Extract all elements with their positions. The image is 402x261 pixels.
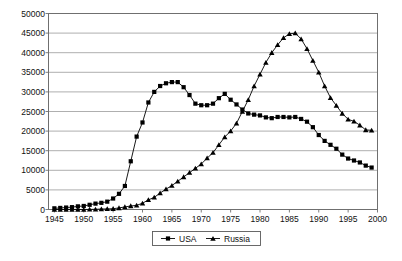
y-tick-label: 20000 (21, 126, 45, 136)
chart-container: 0500010000150002000025000300003500040000… (0, 0, 402, 261)
data-point-marker (328, 143, 332, 147)
data-point-marker (287, 115, 291, 119)
data-point-marker (123, 184, 127, 188)
data-point-marker (305, 120, 309, 124)
data-point-marker (246, 111, 250, 115)
data-point-marker (364, 164, 368, 168)
data-point-marker (358, 160, 362, 164)
data-point-marker (334, 147, 338, 151)
data-point-marker (234, 102, 238, 106)
data-point-marker (176, 80, 180, 84)
x-tick-label: 1945 (45, 214, 64, 224)
data-point-marker (264, 115, 268, 119)
line-chart: 0500010000150002000025000300003500040000… (0, 0, 402, 261)
data-point-marker (193, 102, 197, 106)
y-tick-label: 45000 (21, 28, 45, 38)
x-tick-label: 1960 (133, 214, 152, 224)
data-point-marker (205, 103, 209, 107)
data-point-marker (99, 201, 103, 205)
x-tick-label: 1950 (74, 214, 93, 224)
x-tick-label: 1990 (309, 214, 328, 224)
y-tick-label: 25000 (21, 107, 45, 117)
data-point-marker (340, 153, 344, 157)
x-tick-label: 1970 (192, 214, 211, 224)
data-point-marker (352, 158, 356, 162)
data-point-marker (199, 103, 203, 107)
legend-label: Russia (224, 234, 250, 244)
data-point-marker (170, 80, 174, 84)
data-point-marker (276, 115, 280, 119)
y-tick-label: 40000 (21, 48, 45, 58)
data-point-marker (370, 165, 374, 169)
x-tick-label: 1955 (104, 214, 123, 224)
x-tick-label: 1980 (251, 214, 270, 224)
x-tick-label: 2000 (368, 214, 387, 224)
y-tick-label: 15000 (21, 146, 45, 156)
chart-legend: USARussia (153, 232, 261, 246)
data-point-marker (270, 116, 274, 120)
data-point-marker (111, 196, 115, 200)
y-tick-label: 10000 (21, 165, 45, 175)
data-point-marker (299, 117, 303, 121)
data-point-marker (164, 81, 168, 85)
y-tick-label: 50000 (21, 9, 45, 19)
y-tick-label: 30000 (21, 87, 45, 97)
data-point-marker (323, 139, 327, 143)
y-tick-label: 35000 (21, 67, 45, 77)
data-point-marker (281, 115, 285, 119)
legend-marker-square (166, 236, 170, 240)
data-point-marker (223, 92, 227, 96)
data-point-marker (311, 125, 315, 129)
data-point-marker (229, 98, 233, 102)
x-tick-label: 1975 (221, 214, 240, 224)
data-point-marker (135, 134, 139, 138)
x-tick-label: 1985 (280, 214, 299, 224)
data-point-marker (217, 96, 221, 100)
legend-label: USA (179, 234, 197, 244)
data-point-marker (152, 90, 156, 94)
data-point-marker (93, 202, 97, 206)
data-point-marker (140, 120, 144, 124)
data-point-marker (346, 156, 350, 160)
data-point-marker (182, 85, 186, 89)
data-point-marker (146, 100, 150, 104)
x-tick-label: 1995 (339, 214, 358, 224)
data-point-marker (187, 93, 191, 97)
y-tick-label: 5000 (26, 185, 45, 195)
data-point-marker (88, 203, 92, 207)
data-point-marker (258, 113, 262, 117)
data-point-marker (293, 115, 297, 119)
data-point-marker (252, 113, 256, 117)
data-point-marker (117, 192, 121, 196)
x-tick-label: 1965 (162, 214, 181, 224)
data-point-marker (317, 133, 321, 137)
data-point-marker (129, 159, 133, 163)
data-point-marker (158, 84, 162, 88)
data-point-marker (211, 102, 215, 106)
data-point-marker (105, 200, 109, 204)
